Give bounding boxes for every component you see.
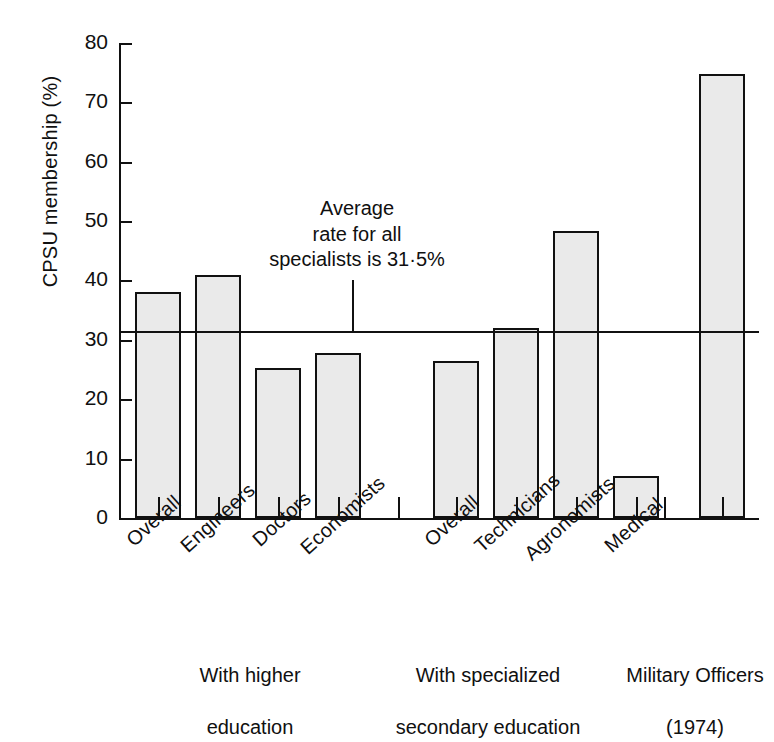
bar-engineers [195, 275, 241, 518]
group1-line1: With higher [150, 662, 350, 688]
y-tick-label-0: 0 [28, 505, 108, 529]
y-tick-label-80: 80 [28, 30, 108, 54]
y-axis-title: CPSU membership (%) [39, 22, 62, 342]
y-tick-60 [119, 162, 132, 164]
annotation-line-1: Average [232, 196, 482, 222]
y-tick-30 [119, 340, 132, 342]
y-tick-80 [119, 43, 132, 45]
group-caption-secondary-education: With specialized secondary education [373, 636, 603, 742]
y-tick-label-60: 60 [28, 149, 108, 173]
group-caption-military-officers: Military Officers (1974) [610, 636, 774, 742]
annotation-leader-line [352, 280, 354, 331]
group3-line2: (1974) [610, 714, 774, 740]
group2-line1: With specialized [373, 662, 603, 688]
y-tick-label-10: 10 [28, 446, 108, 470]
group-caption-higher-education: With higher education [150, 636, 350, 742]
y-tick-10 [119, 459, 132, 461]
y-tick-label-30: 30 [28, 327, 108, 351]
group3-line1: Military Officers [610, 662, 774, 688]
group2-line2: secondary education [373, 714, 603, 740]
y-tick-label-40: 40 [28, 267, 108, 291]
annotation-line-3: specialists is 31·5% [232, 247, 482, 273]
bar-agronomists [553, 231, 599, 518]
annotation-line-2: rate for all [232, 222, 482, 248]
x-tick-gap-1 [398, 497, 400, 518]
y-tick-70 [119, 102, 132, 104]
bar-overall-higher [135, 292, 181, 518]
y-tick-label-20: 20 [28, 386, 108, 410]
y-tick-label-70: 70 [28, 89, 108, 113]
x-tick-8 [722, 497, 724, 518]
y-tick-20 [119, 399, 132, 401]
group1-line2: education [150, 714, 350, 740]
average-annotation: Average rate for all specialists is 31·5… [232, 196, 482, 273]
y-tick-40 [119, 280, 132, 282]
bar-military-officers [699, 74, 745, 518]
y-tick-50 [119, 221, 132, 223]
y-tick-label-50: 50 [28, 208, 108, 232]
average-reference-line [119, 331, 759, 333]
